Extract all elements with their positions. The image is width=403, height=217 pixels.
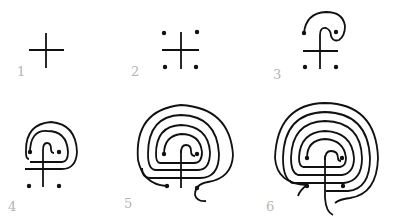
- step-2-label: 2: [131, 64, 139, 79]
- step-6-label: 6: [266, 199, 274, 214]
- step-4-label: 4: [8, 199, 16, 214]
- step-3-label: 3: [273, 67, 281, 82]
- step-6-figure: 6: [266, 103, 378, 215]
- step-3-figure: 3: [273, 12, 345, 82]
- step-1-figure: 1: [17, 33, 64, 79]
- step-2-figure: 2: [131, 30, 199, 79]
- step-4-figure: 4: [8, 122, 77, 214]
- step-5-label: 5: [124, 196, 132, 211]
- labyrinth-diagram: 1 2 3 4: [0, 0, 403, 217]
- step-1-label: 1: [17, 64, 25, 79]
- step-5-figure: 5: [124, 105, 233, 211]
